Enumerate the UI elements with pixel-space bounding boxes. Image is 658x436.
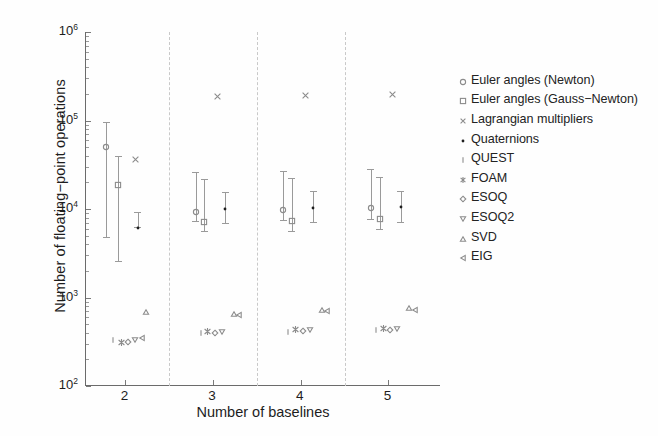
plot-area (85, 32, 440, 386)
x-tick-label: 2 (109, 388, 139, 403)
data-point-marker (388, 85, 397, 94)
error-bar-cap (192, 172, 199, 173)
legend-item-label: ESOQ (471, 190, 507, 204)
y-axis-label: Number of floating−point operations (52, 26, 68, 366)
cross-x-icon (455, 111, 471, 127)
legend-item-label: EIG (471, 249, 493, 263)
legend-item[interactable]: Lagrangian multipliers (455, 109, 651, 129)
legend-item[interactable]: QUEST (455, 148, 651, 168)
legend-item-label: Lagrangian multipliers (471, 112, 593, 126)
figure-canvas: Number of floating−point operations 1021… (0, 0, 658, 436)
error-bar-cap (376, 177, 383, 178)
dot-filled-icon (455, 131, 471, 147)
data-point-marker (411, 300, 419, 308)
legend-item[interactable]: EIG (455, 246, 651, 266)
y-tick-label: 102 (28, 377, 78, 392)
error-bar (118, 156, 119, 261)
asterisk-icon (455, 170, 471, 186)
error-bar-cap (280, 220, 287, 221)
diamond-open-icon (455, 189, 471, 205)
error-bar-cap (367, 219, 374, 220)
data-point-marker (218, 322, 226, 330)
data-point-marker (131, 150, 140, 159)
y-tick-label: 103 (28, 289, 78, 304)
error-bar-cap (310, 222, 317, 223)
x-tick-label: 5 (372, 388, 402, 403)
circle-open-icon (455, 72, 471, 88)
error-bar-cap (397, 191, 404, 192)
error-bar-cap (115, 261, 122, 262)
data-point-marker (235, 305, 243, 313)
data-point-marker (301, 86, 310, 95)
error-bar-cap (222, 223, 229, 224)
data-point-marker (323, 301, 331, 309)
error-bar-cap (201, 231, 208, 232)
error-bar-cap (201, 179, 208, 180)
triangle-down-open-icon (455, 209, 471, 225)
error-bar-cap (222, 192, 229, 193)
legend-item-label: ESOQ2 (471, 210, 514, 224)
error-bar-cap (376, 229, 383, 230)
x-tick-label: 3 (197, 388, 227, 403)
error-bar-cap (103, 122, 110, 123)
legend: Euler angles (Newton)Euler angles (Gauss… (455, 70, 651, 266)
data-point-marker (114, 175, 122, 183)
vertical-bar-icon (455, 150, 471, 166)
legend-item[interactable]: Quaternions (455, 129, 651, 149)
data-point-marker (192, 202, 200, 210)
data-point-marker (397, 197, 405, 205)
legend-item[interactable]: FOAM (455, 168, 651, 188)
x-axis-label: Number of baselines (84, 404, 442, 420)
data-series-layer (86, 32, 441, 386)
data-point-marker (138, 328, 146, 336)
data-point-marker (102, 137, 110, 145)
x-tick-label: 4 (285, 388, 315, 403)
error-bar-cap (280, 171, 287, 172)
y-tick-label: 104 (28, 200, 78, 215)
error-bar-cap (310, 191, 317, 192)
data-point-marker (393, 319, 401, 327)
data-point-marker (376, 209, 384, 217)
legend-item[interactable]: ESOQ2 (455, 207, 651, 227)
legend-item-label: Euler angles (Gauss−Newton) (471, 92, 638, 106)
error-bar-cap (115, 156, 122, 157)
legend-item[interactable]: SVD (455, 227, 651, 247)
legend-item[interactable]: Euler angles (Newton) (455, 70, 651, 90)
error-bar-cap (288, 178, 295, 179)
data-point-marker (306, 320, 314, 328)
error-bar-cap (397, 222, 404, 223)
legend-item[interactable]: Euler angles (Gauss−Newton) (455, 90, 651, 110)
error-bar-cap (367, 169, 374, 170)
data-point-marker (367, 198, 375, 206)
triangle-left-open-icon (455, 248, 471, 264)
data-point-marker (279, 200, 287, 208)
data-point-marker (142, 302, 150, 310)
error-bar-cap (192, 221, 199, 222)
triangle-up-open-icon (455, 229, 471, 245)
legend-item-label: Euler angles (Newton) (471, 73, 595, 87)
legend-item-label: Quaternions (471, 132, 539, 146)
square-open-icon (455, 91, 471, 107)
error-bar-cap (103, 237, 110, 238)
data-point-marker (221, 199, 229, 207)
data-point-marker (288, 211, 296, 219)
y-tick-label: 105 (28, 112, 78, 127)
data-point-marker (200, 212, 208, 220)
data-point-marker (309, 198, 317, 206)
data-point-marker (134, 218, 142, 226)
legend-item-label: FOAM (471, 171, 507, 185)
y-tick-label: 106 (28, 23, 78, 38)
error-bar-cap (134, 212, 141, 213)
y-tick-mark (86, 386, 91, 387)
data-point-marker (213, 87, 222, 96)
legend-item-label: QUEST (471, 151, 514, 165)
error-bar-cap (288, 231, 295, 232)
legend-item[interactable]: ESOQ (455, 188, 651, 208)
legend-item-label: SVD (471, 230, 497, 244)
